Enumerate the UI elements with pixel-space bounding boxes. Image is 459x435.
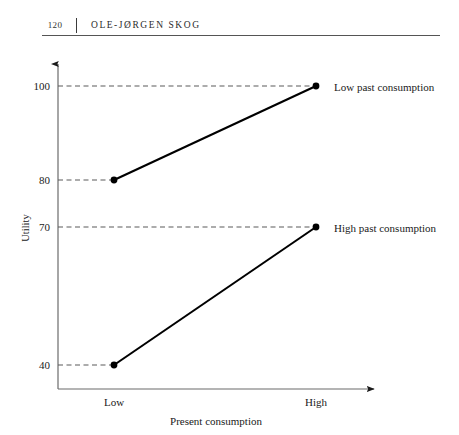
plot-canvas	[0, 0, 459, 435]
x-tick-label-low: Low	[84, 396, 144, 408]
utility-consumption-figure: 100 80 70 40 Utility Low High Present co…	[0, 0, 459, 435]
x-axis-title: Present consumption	[170, 415, 262, 427]
y-tick-label-40: 40	[16, 359, 50, 371]
y-tick-label-100: 100	[16, 80, 50, 92]
series-label-low-past-consumption: Low past consumption	[334, 81, 434, 93]
series-label-high-past-consumption: High past consumption	[334, 222, 436, 234]
x-tick-label-high: High	[286, 396, 346, 408]
y-axis-title: Utility	[20, 214, 31, 241]
data-point-low-past-high	[313, 83, 320, 90]
data-point-high-past-low	[111, 362, 118, 369]
y-tick-label-80: 80	[16, 174, 50, 186]
data-point-low-past-low	[111, 177, 118, 184]
data-point-high-past-high	[313, 224, 320, 231]
series-line-high-past-consumption	[114, 227, 316, 365]
series-line-low-past-consumption	[114, 86, 316, 180]
